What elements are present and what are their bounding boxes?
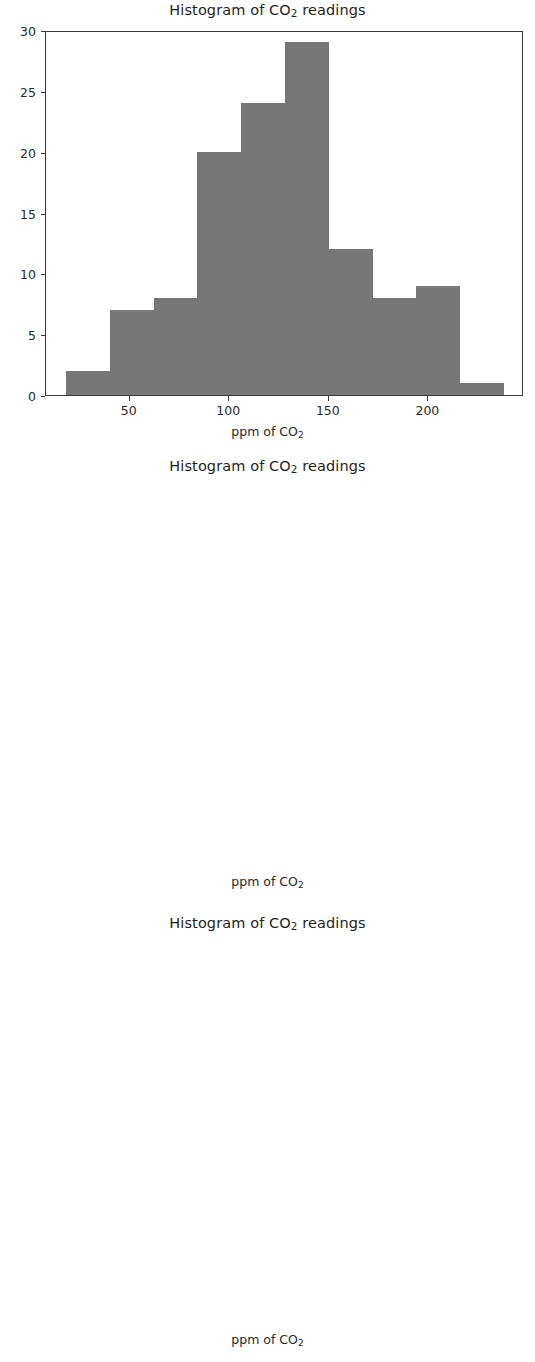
chart-title-1-subscript: 2 xyxy=(291,7,298,19)
histogram-bar xyxy=(66,371,110,395)
x-axis-label-1-prefix: ppm of CO xyxy=(231,424,298,439)
x-tick-mark xyxy=(228,396,229,401)
chart-title-1-prefix: Histogram of CO xyxy=(169,2,290,18)
y-tick-mark xyxy=(41,214,46,215)
chart-title-2-subscript: 2 xyxy=(291,463,298,475)
histogram-figure-stack: Histogram of CO2 readings 302520151050 5… xyxy=(0,0,535,1362)
histogram-bar xyxy=(373,298,417,395)
y-tick-mark xyxy=(41,31,46,32)
x-tick-label: 50 xyxy=(121,403,137,418)
chart-title-3: Histogram of CO2 readings xyxy=(0,915,535,931)
plot-area-1 xyxy=(45,31,523,396)
y-tick-label: 15 xyxy=(0,206,36,221)
histogram-bar xyxy=(110,310,154,395)
histogram-bar xyxy=(154,298,198,395)
x-axis-label-1: ppm of CO2 xyxy=(0,424,535,439)
x-axis-label-2: ppm of CO2 xyxy=(0,874,535,889)
histogram-figure-3: Histogram of CO2 readings 2520151050 501… xyxy=(0,905,535,1362)
y-tick-label: 10 xyxy=(0,267,36,282)
x-axis-label-2-prefix: ppm of CO xyxy=(231,874,298,889)
x-tick-mark xyxy=(328,396,329,401)
x-axis-label-3: ppm of CO2 xyxy=(0,1332,535,1347)
histogram-figure-1: Histogram of CO2 readings 302520151050 5… xyxy=(0,0,535,450)
y-tick-label: 25 xyxy=(0,84,36,99)
chart-title-2-suffix: readings xyxy=(298,458,366,474)
chart-title-1-suffix: readings xyxy=(298,2,366,18)
y-tick-mark xyxy=(41,396,46,397)
chart-title-3-suffix: readings xyxy=(298,915,366,931)
x-axis-label-3-subscript: 2 xyxy=(298,1338,304,1348)
x-tick-label: 150 xyxy=(316,403,340,418)
y-tick-label: 30 xyxy=(0,24,36,39)
x-tick-label: 100 xyxy=(216,403,240,418)
x-tick-mark xyxy=(427,396,428,401)
histogram-bar xyxy=(329,249,373,395)
y-tick-label: 0 xyxy=(0,389,36,404)
histogram-bar xyxy=(197,152,241,395)
histogram-bar xyxy=(285,42,329,395)
histogram-bars-1 xyxy=(46,32,522,395)
chart-title-1: Histogram of CO2 readings xyxy=(0,2,535,18)
x-axis-label-3-prefix: ppm of CO xyxy=(231,1332,298,1347)
y-tick-mark xyxy=(41,335,46,336)
chart-title-3-prefix: Histogram of CO xyxy=(169,915,290,931)
x-tick-mark xyxy=(129,396,130,401)
y-tick-mark xyxy=(41,274,46,275)
y-tick-label: 20 xyxy=(0,145,36,160)
histogram-bar xyxy=(460,383,504,395)
histogram-bar xyxy=(241,103,285,395)
x-tick-label: 200 xyxy=(415,403,439,418)
y-tick-mark xyxy=(41,153,46,154)
chart-title-3-subscript: 2 xyxy=(291,920,298,932)
histogram-bar xyxy=(416,286,460,396)
y-tick-mark xyxy=(41,92,46,93)
chart-title-2-prefix: Histogram of CO xyxy=(169,458,290,474)
x-axis-label-2-subscript: 2 xyxy=(298,880,304,890)
chart-title-2: Histogram of CO2 readings xyxy=(0,458,535,474)
y-tick-label: 5 xyxy=(0,328,36,343)
x-axis-label-1-subscript: 2 xyxy=(298,430,304,440)
histogram-figure-2: Histogram of CO2 readings 20.017.515.012… xyxy=(0,450,535,905)
